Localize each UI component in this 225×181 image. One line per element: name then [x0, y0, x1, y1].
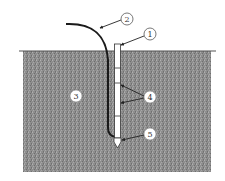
svg-text:1: 1	[147, 30, 152, 39]
label-2: 2	[121, 13, 133, 25]
svg-text:4: 4	[147, 93, 152, 102]
svg-text:5: 5	[147, 130, 152, 139]
label-5: 5	[144, 128, 156, 140]
label-3: 3	[70, 90, 82, 102]
svg-text:2: 2	[124, 15, 129, 24]
label-1: 1	[144, 28, 156, 40]
soil-probe-cross-section-diagram: 1 2 3 4 5	[0, 0, 225, 181]
label-4: 4	[144, 91, 156, 103]
probe-tube	[115, 44, 121, 138]
leader-line-2	[100, 20, 121, 28]
leader-line-1	[121, 36, 144, 45]
svg-text:3: 3	[73, 92, 78, 101]
